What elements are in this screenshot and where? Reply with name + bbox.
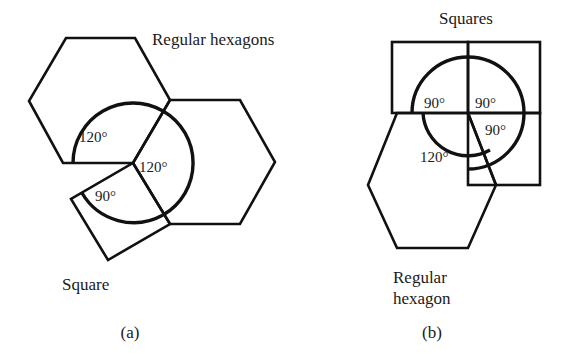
- panel-label-b: (b): [422, 323, 442, 342]
- caption-regular-hexagons: Regular hexagons: [152, 30, 274, 49]
- angle-label-square-upper-right: 90°: [475, 95, 496, 111]
- panel-label-a: (a): [121, 323, 140, 342]
- panel-b: 90° 90° 90° 120° Squares Regular hexagon…: [281, 0, 562, 359]
- arc-hexagon-right-120: [163, 111, 193, 215]
- angle-label-hexagon-right: 120°: [139, 159, 168, 175]
- angle-label-hexagon-upper-left: 120°: [79, 129, 108, 145]
- angle-label-hexagon-lower-left: 120°: [420, 149, 449, 165]
- angle-label-square-upper-left: 90°: [424, 95, 445, 111]
- caption-regular-hexagon-line2: hexagon: [393, 289, 451, 308]
- panel-a: 120° 120° 90° Regular hexagons Square (a…: [0, 0, 281, 359]
- angle-label-square-lower-left: 90°: [95, 188, 116, 204]
- caption-regular-hexagon-line1: Regular: [393, 268, 447, 287]
- caption-squares: Squares: [439, 9, 493, 28]
- figure-root: 120° 120° 90° Regular hexagons Square (a…: [0, 0, 562, 359]
- angle-label-square-lower-right: 90°: [485, 122, 506, 138]
- caption-square: Square: [62, 275, 109, 294]
- square-lower-left: [71, 163, 170, 260]
